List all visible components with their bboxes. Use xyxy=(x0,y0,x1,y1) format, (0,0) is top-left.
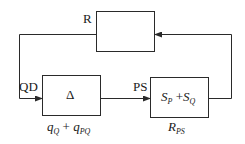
caption-delta: qQ + qPQ xyxy=(47,120,90,133)
label-r: R xyxy=(83,12,92,25)
label-qd: QD xyxy=(19,80,38,93)
label-ps: PS xyxy=(133,80,147,93)
block-r xyxy=(97,12,155,52)
delta-symbol: Δ xyxy=(66,88,74,101)
caption-ps: RPS xyxy=(168,120,185,133)
ps-content: SP +SQ xyxy=(161,90,195,103)
diagram-canvas xyxy=(0,0,245,144)
